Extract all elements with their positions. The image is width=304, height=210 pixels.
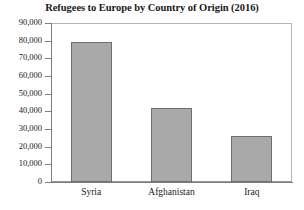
y-axis-tick <box>45 58 51 59</box>
chart-title: Refugees to Europe by Country of Origin … <box>0 1 304 14</box>
y-axis-line <box>51 23 52 183</box>
y-axis-tick-label: 30,000 <box>0 124 42 133</box>
bar-iraq <box>231 136 272 182</box>
y-axis-tick <box>45 111 51 112</box>
y-axis-tick-label: 90,000 <box>0 18 42 27</box>
bar-syria <box>71 42 112 182</box>
y-axis-tick-label: 40,000 <box>0 106 42 115</box>
x-axis-label-afghanistan: Afghanistan <box>131 186 211 198</box>
y-axis-tick-label: 60,000 <box>0 71 42 80</box>
y-axis-tick <box>45 147 51 148</box>
y-axis-tick <box>45 41 51 42</box>
y-axis-tick-label: 50,000 <box>0 89 42 98</box>
x-axis-label-syria: Syria <box>51 186 131 198</box>
y-axis-tick <box>45 129 51 130</box>
y-axis-tick <box>45 164 51 165</box>
y-axis-tick <box>45 23 51 24</box>
y-axis-tick <box>45 182 51 183</box>
y-axis-tick-label: 80,000 <box>0 36 42 45</box>
y-axis-tick <box>45 76 51 77</box>
x-axis-label-iraq: Iraq <box>212 186 292 198</box>
y-axis-tick-label: 0 <box>0 177 42 186</box>
bar-afghanistan <box>151 108 192 182</box>
y-axis-tick-label: 10,000 <box>0 159 42 168</box>
y-axis-tick <box>45 94 51 95</box>
y-axis-tick-label: 20,000 <box>0 142 42 151</box>
y-axis-tick-label: 70,000 <box>0 53 42 62</box>
bar-chart-figure: Refugees to Europe by Country of Origin … <box>0 0 304 210</box>
x-axis-line <box>51 182 293 183</box>
